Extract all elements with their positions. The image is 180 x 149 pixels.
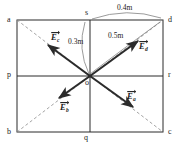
vector-label-Ed: Ed [139,42,148,51]
vector-arrow-Ed [90,41,138,76]
vector-label-Ec: Ec [51,33,60,42]
physics-diagram-canvas: a d p r b c s q o 0.4m 0.3m 0.5m Ec Ed [0,0,180,149]
vertex-label-p: p [7,71,11,79]
dimension-label-sd: 0.4m [117,4,132,12]
diagram-vector-graphics [0,0,180,149]
vector-symbol-Ec: E [51,32,57,42]
vector-symbol-Eb: E [60,102,66,112]
dimension-label-os: 0.3m [68,38,83,46]
vector-subscript-Ed: d [145,46,148,52]
vertex-label-c: c [168,128,172,136]
dimension-arc-os [82,22,89,74]
vertex-label-r: r [168,71,171,79]
dimension-arc-od [90,22,160,74]
vector-symbol-Ed: E [139,41,145,51]
dimension-arc-sd [92,13,161,19]
vector-label-Ea: Ea [127,92,136,101]
vertex-label-a: a [7,16,11,24]
vector-subscript-Ea: a [133,96,136,102]
vertex-label-s: s [85,9,88,17]
vector-symbol-Ea: E [127,91,133,101]
vertex-label-d: d [168,16,172,24]
vertex-label-b: b [7,128,11,136]
dimension-label-od: 0.5m [108,32,123,40]
vertex-label-q: q [84,134,88,142]
vector-subscript-Eb: b [66,107,69,113]
vertex-label-o: o [85,79,89,87]
vector-label-Eb: Eb [60,103,69,112]
